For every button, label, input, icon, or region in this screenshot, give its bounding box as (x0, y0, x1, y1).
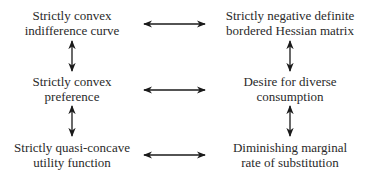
node-line: Strictly convex (32, 74, 111, 89)
node-line: Strictly negative definite (226, 8, 355, 23)
node-convex-indifference-curve: Strictly convex indifference curve (25, 8, 120, 38)
node-line: rate of substitution (233, 155, 347, 170)
node-line: Strictly convex (25, 8, 120, 23)
node-line: Desire for diverse (243, 74, 336, 89)
node-convex-preference: Strictly convex preference (32, 74, 111, 104)
node-negative-definite-hessian: Strictly negative definite bordered Hess… (226, 8, 355, 38)
node-line: utility function (14, 155, 130, 170)
node-line: indifference curve (25, 23, 120, 38)
node-line: preference (32, 89, 111, 104)
node-line: Strictly quasi-concave (14, 140, 130, 155)
node-diverse-consumption: Desire for diverse consumption (243, 74, 336, 104)
node-line: bordered Hessian matrix (226, 23, 355, 38)
node-line: Diminishing marginal (233, 140, 347, 155)
node-diminishing-mrs: Diminishing marginal rate of substitutio… (233, 140, 347, 170)
node-line: consumption (243, 89, 336, 104)
node-quasi-concave-utility: Strictly quasi-concave utility function (14, 140, 130, 170)
